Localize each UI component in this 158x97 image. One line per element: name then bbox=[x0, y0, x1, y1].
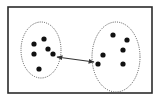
right-cluster bbox=[92, 22, 140, 92]
data-point bbox=[45, 46, 50, 51]
data-point bbox=[120, 61, 125, 66]
data-point bbox=[110, 32, 115, 37]
cluster-diagram bbox=[0, 0, 158, 97]
data-point bbox=[100, 52, 105, 57]
data-point bbox=[36, 66, 41, 71]
cluster-boundary-ellipse bbox=[92, 22, 140, 92]
data-point bbox=[120, 47, 125, 52]
data-point bbox=[95, 61, 100, 66]
data-point bbox=[41, 36, 46, 41]
data-point bbox=[50, 51, 55, 56]
left-cluster bbox=[21, 22, 61, 78]
distance-arrow bbox=[57, 57, 94, 62]
data-point bbox=[31, 41, 36, 46]
data-point bbox=[124, 37, 129, 42]
diagram-frame bbox=[8, 7, 152, 93]
clusters-group bbox=[21, 22, 140, 92]
data-point bbox=[31, 51, 36, 56]
